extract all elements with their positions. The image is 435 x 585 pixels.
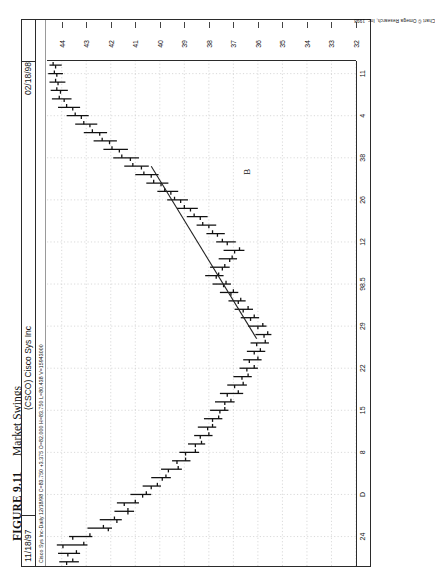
price-tick-label: 35 — [279, 40, 286, 48]
ohlc-bar — [198, 424, 216, 430]
price-tick-label: 37 — [230, 40, 237, 48]
ohlc-bar — [94, 138, 117, 144]
ohlc-bar — [130, 491, 151, 497]
chart-credit: Chart © Omega Research, Inc. 1998 — [354, 18, 435, 23]
ohlc-bar — [219, 256, 237, 262]
price-tick-mark — [307, 22, 308, 28]
ohlc-bar — [59, 559, 79, 565]
ohlc-bar — [233, 373, 251, 379]
plot-area: B — [47, 61, 356, 566]
chart-window-wrapper: 11/18/97 (CSCO) Cisco Sys Inc 02/18/98 C… — [21, 19, 371, 567]
price-tick-mark — [209, 22, 210, 28]
ohlc-bar — [117, 500, 139, 506]
price-tick-label: 36 — [254, 40, 261, 48]
ohlc-bar — [210, 407, 228, 413]
ohlc-bar — [179, 449, 199, 455]
ohlc-bar — [87, 525, 112, 531]
ohlc-bar — [206, 230, 224, 236]
price-tick-mark — [135, 22, 136, 28]
date-tick-label: 12 — [359, 238, 366, 246]
header-end-date: 02/18/98 — [23, 62, 33, 95]
ohlc-bar — [243, 357, 261, 363]
ohlc-bar — [161, 466, 182, 472]
date-tick-label: 29 — [359, 322, 366, 330]
ohlc-bar — [177, 205, 198, 211]
ohlc-bar — [103, 146, 128, 152]
ohlc-bar — [194, 432, 212, 438]
ohlc-bar — [151, 474, 171, 480]
ohlc-bar — [215, 399, 235, 405]
price-axis: 44434241403938373635343332 — [47, 20, 356, 61]
price-tick-label: 41 — [132, 40, 139, 48]
ohlc-bar — [124, 163, 149, 169]
date-tick-label: D — [359, 492, 366, 497]
price-tick-label: 43 — [83, 40, 90, 48]
date-tick-label: 26 — [359, 196, 366, 204]
ohlc-bar — [49, 79, 65, 85]
date-tick-label: 24 — [359, 533, 366, 541]
ohlc-bar — [146, 180, 168, 186]
date-axis: 24D815222998.5122638411 — [356, 61, 370, 566]
ohlc-bar — [57, 542, 88, 548]
date-tick-label: 15 — [359, 406, 366, 414]
date-tick-label: 38 — [359, 154, 366, 162]
ohlc-bar — [114, 508, 134, 514]
ohlc-bars — [48, 62, 271, 565]
ohlc-bar — [220, 390, 243, 396]
chart-window: 11/18/97 (CSCO) Cisco Sys Inc 02/18/98 C… — [21, 19, 371, 567]
ohlc-bar — [197, 222, 217, 228]
ohlc-bar — [216, 239, 236, 245]
price-tick-label: 34 — [303, 40, 310, 48]
price-tick-label: 40 — [156, 40, 163, 48]
header-start-date: 11/18/97 — [23, 530, 33, 562]
price-tick-label: 32 — [353, 40, 360, 48]
ohlc-bar — [58, 550, 80, 556]
chart-header: 11/18/97 (CSCO) Cisco Sys Inc 02/18/98 — [22, 20, 36, 566]
price-tick-mark — [356, 22, 357, 28]
ohlc-bar — [69, 533, 92, 539]
ohlc-bar — [67, 113, 89, 119]
ohlc-bar — [220, 289, 238, 295]
date-tick-label: 98.5 — [359, 277, 366, 291]
price-tick-mark — [184, 22, 185, 28]
price-tick-mark — [62, 22, 63, 28]
price-tick-mark — [282, 22, 283, 28]
quote-status-line: Cisco Sys Inc-Daily 12/18/98 C=83.750 +3… — [36, 20, 46, 566]
date-tick-label: 11 — [359, 70, 366, 77]
price-tick-label: 42 — [107, 40, 114, 48]
ohlc-bar — [251, 340, 269, 346]
ohlc-bar — [187, 214, 208, 220]
price-tick-label: 33 — [328, 40, 335, 48]
ohlc-bar — [58, 104, 80, 110]
price-tick-mark — [160, 22, 161, 28]
price-tick-label: 39 — [181, 40, 188, 48]
price-tick-mark — [233, 22, 234, 28]
date-tick-label: 4 — [359, 114, 366, 118]
ohlc-bar — [227, 382, 247, 388]
header-symbol-title: (CSCO) Cisco Sys Inc — [23, 326, 33, 410]
date-tick-label: 8 — [359, 450, 366, 454]
price-tick-label: 44 — [58, 40, 65, 48]
trendline — [151, 166, 256, 339]
price-tick-mark — [111, 22, 112, 28]
ohlc-bar — [188, 441, 205, 447]
ohlc-bar — [228, 298, 245, 304]
ohlc-bar — [240, 365, 258, 371]
date-tick-label: 22 — [359, 364, 366, 372]
ohlc-bar — [143, 483, 161, 489]
ohlc-bar — [48, 70, 63, 76]
ohlc-bar — [172, 458, 190, 464]
price-tick-label: 38 — [205, 40, 212, 48]
price-tick-mark — [86, 22, 87, 28]
chart-annotation-label: B — [242, 169, 252, 175]
ohlc-bar — [224, 247, 245, 253]
ohlc-bar — [204, 416, 222, 422]
price-tick-mark — [258, 22, 259, 28]
ohlc-bar — [247, 348, 265, 354]
grid-lines — [47, 61, 356, 566]
ohlc-bar — [84, 129, 107, 135]
ohlc-bar — [205, 272, 223, 278]
ohlc-bar — [51, 87, 68, 93]
ohlc-plot-svg — [47, 61, 356, 566]
